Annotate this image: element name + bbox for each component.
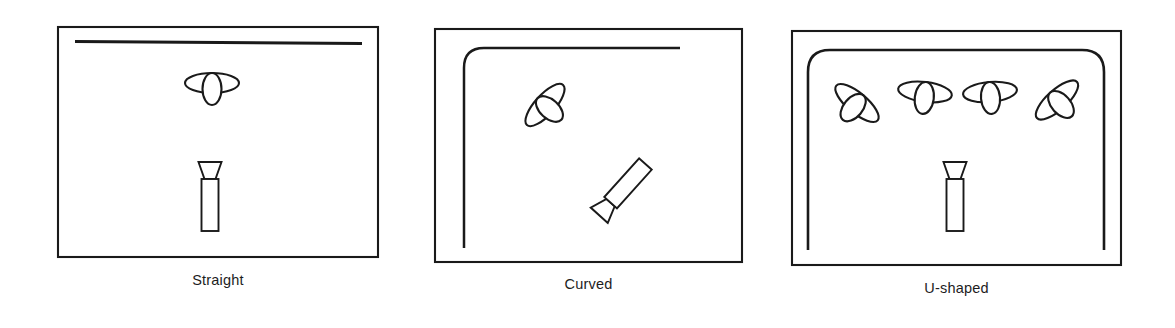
panel-caption-ushaped: U-shaped bbox=[792, 280, 1121, 296]
observer-glyph bbox=[199, 162, 222, 231]
panel-ushaped bbox=[792, 31, 1121, 265]
panel-caption-curved: Curved bbox=[435, 276, 742, 292]
panel-curved bbox=[435, 29, 742, 262]
straight-path-line bbox=[75, 42, 362, 44]
panel-caption-straight: Straight bbox=[58, 272, 378, 288]
figure-root: Straight Curved U-shaped bbox=[0, 0, 1175, 328]
observer-glyph bbox=[944, 162, 967, 231]
panel-frame-curved bbox=[435, 29, 742, 262]
panel-straight bbox=[58, 27, 378, 257]
